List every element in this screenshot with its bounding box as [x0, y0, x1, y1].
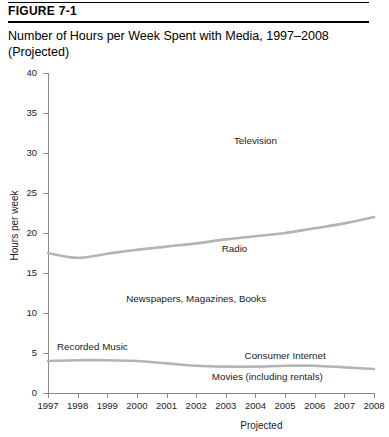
header-rule-top [8, 2, 369, 3]
header-rule-bottom [8, 21, 369, 23]
line-recorded-music [48, 360, 374, 369]
annotation-television: Television [234, 135, 277, 146]
projected-note: Projected [216, 420, 306, 431]
chart-plot-area: Hours per week 4035302520151050 19971998… [0, 60, 377, 437]
annotation-recorded-music: Recorded Music [57, 341, 128, 352]
annotation-radio: Radio [222, 243, 248, 254]
figure-title: Number of Hours per Week Spent with Medi… [8, 28, 370, 60]
line-radio [48, 217, 374, 258]
annotation-consumer-internet: Consumer Internet [245, 350, 326, 361]
annotation-newspapers-magazines-books: Newspapers, Magazines, Books [126, 293, 266, 304]
figure-number-label: FIGURE 7-1 [8, 4, 77, 19]
annotation-movies-including-rentals: Movies (including rentals) [212, 371, 323, 382]
